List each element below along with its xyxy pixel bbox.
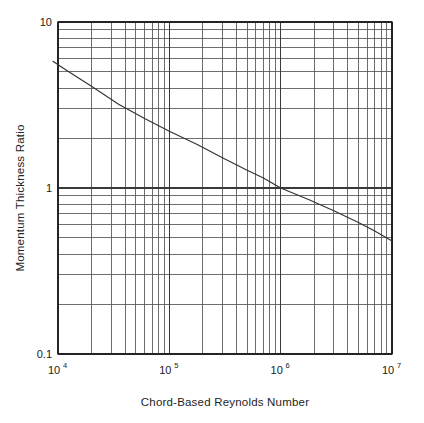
log-log-line-chart: 104105106107 1010.1 Chord-Based Reynolds… [0, 0, 424, 423]
y-tick-label: 1 [46, 182, 52, 194]
x-tick-exponent: 4 [63, 361, 67, 370]
x-tick-exponent: 7 [397, 361, 401, 370]
y-tick-label: 0.1 [37, 348, 52, 360]
x-tick-label: 10 [382, 364, 394, 376]
y-tick-label: 10 [40, 16, 52, 28]
y-axis-title: Momentum Thickness Ratio [14, 124, 26, 271]
x-tick-label: 10 [271, 364, 283, 376]
x-tick-exponent: 5 [174, 361, 178, 370]
x-tick-label: 10 [159, 364, 171, 376]
x-tick-label: 10 [48, 364, 60, 376]
chart-figure: 104105106107 1010.1 Chord-Based Reynolds… [0, 0, 424, 423]
chart-background [0, 0, 424, 423]
x-axis-title: Chord-Based Reynolds Number [141, 396, 309, 408]
x-tick-exponent: 6 [286, 361, 290, 370]
